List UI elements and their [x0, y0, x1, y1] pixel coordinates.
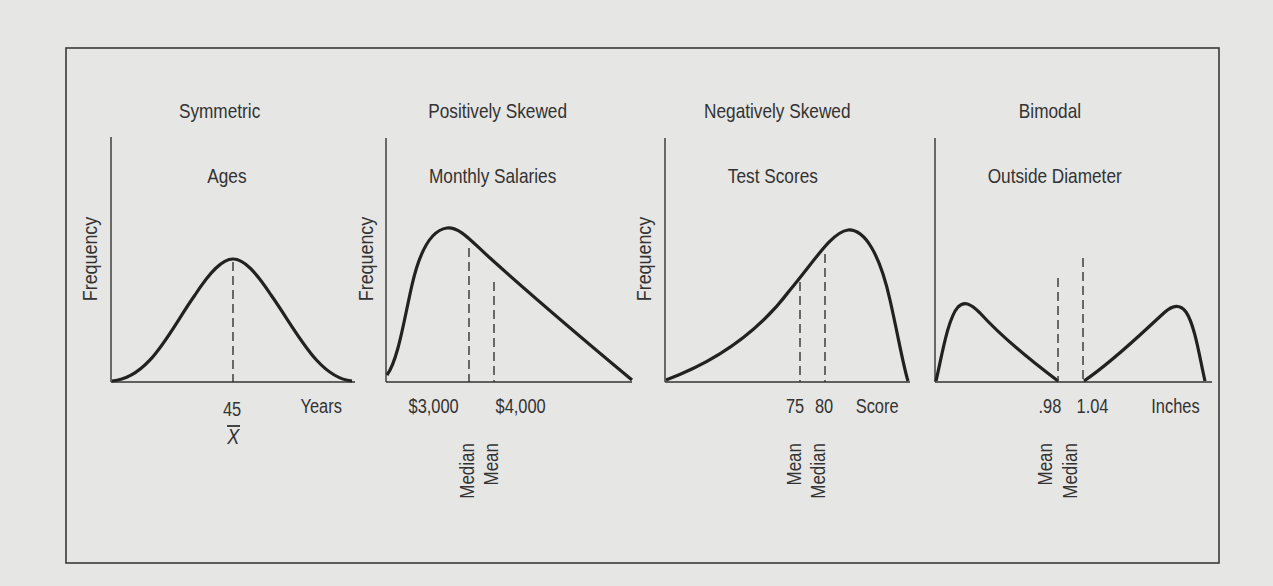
- panel-subtitle: Ages: [207, 164, 246, 188]
- x-tick-label: $4,000: [496, 395, 546, 418]
- x-axis-label: Inches: [1151, 395, 1199, 418]
- mean-symbol: X: [227, 424, 239, 450]
- y-axis-label: Frequency: [78, 217, 102, 302]
- x-axis-label: Years: [301, 395, 342, 418]
- panel-title: Bimodal: [1019, 99, 1081, 123]
- x-tick-label: 45: [223, 398, 241, 421]
- median-label: Median: [1059, 443, 1081, 511]
- x-tick-label: 1.04: [1077, 395, 1109, 418]
- left-mode-curve: [936, 304, 1058, 381]
- median-label: Median: [456, 443, 478, 511]
- y-axis-label: Frequency: [354, 217, 378, 302]
- panel-title: Symmetric: [179, 99, 260, 123]
- mean-label: Mean: [783, 443, 805, 511]
- panel-title: Positively Skewed: [428, 99, 567, 123]
- mean-label: Mean: [1034, 443, 1056, 511]
- x-tick-label: 80: [815, 395, 833, 418]
- median-label: Median: [807, 443, 829, 511]
- mean-label: Mean: [480, 443, 502, 511]
- right-mode-curve: [1084, 306, 1205, 381]
- panel-subtitle: Monthly Salaries: [429, 164, 556, 188]
- distribution-shapes-figure: Symmetric Positively Skewed Negatively S…: [0, 0, 1273, 586]
- x-tick-label: 75: [786, 395, 804, 418]
- panel-subtitle: Test Scores: [728, 164, 818, 188]
- x-tick-label: $3,000: [409, 395, 459, 418]
- skewed-right-curve: [387, 228, 632, 380]
- x-tick-label: .98: [1039, 395, 1062, 418]
- panel-subtitle: Outside Diameter: [988, 164, 1122, 188]
- x-axis-label: Score: [856, 395, 899, 418]
- panel-title: Negatively Skewed: [704, 99, 850, 123]
- bell-curve: [112, 259, 352, 381]
- skewed-left-curve: [666, 230, 908, 381]
- y-axis-label: Frequency: [632, 217, 656, 302]
